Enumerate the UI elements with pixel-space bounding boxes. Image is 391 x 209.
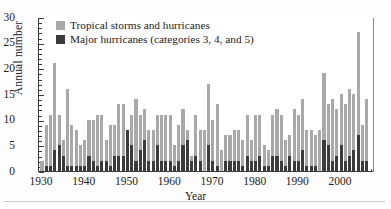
y-axis-minor-tick — [39, 74, 42, 75]
bar-major-hurricanes — [365, 161, 368, 171]
legend-label-tropical-storms: Tropical storms and hurricanes — [70, 19, 210, 31]
x-axis-tick-label: 1990 — [277, 175, 317, 187]
bar-major-hurricanes — [181, 145, 184, 171]
bar-major-hurricanes — [297, 161, 300, 171]
y-axis-minor-tick — [39, 116, 42, 117]
y-axis-minor-tick — [39, 90, 42, 91]
bar-major-hurricanes — [314, 166, 317, 171]
bar-major-hurricanes — [156, 145, 159, 171]
y-axis-minor-tick — [39, 85, 42, 86]
bar-major-hurricanes — [130, 145, 133, 171]
bar-tropical-storms — [318, 130, 321, 171]
y-axis-minor-tick — [39, 80, 42, 81]
y-axis-minor-tick — [39, 105, 42, 106]
y-axis-tick-label: 25 — [0, 37, 15, 49]
bar-major-hurricanes — [134, 161, 137, 171]
y-axis-major-tick — [39, 121, 44, 122]
y-axis-minor-tick — [39, 131, 42, 132]
legend-item-major-hurricanes: Major hurricanes (categories 3, 4, and 5… — [56, 33, 254, 45]
bar-tropical-storms — [70, 125, 73, 171]
bar-major-hurricanes — [288, 156, 291, 171]
bar-major-hurricanes — [233, 161, 236, 171]
bar-major-hurricanes — [177, 161, 180, 171]
bar-major-hurricanes — [75, 166, 78, 171]
bar-major-hurricanes — [357, 135, 360, 171]
bar-tropical-storms — [66, 89, 69, 171]
y-axis-minor-tick — [39, 33, 42, 34]
bar-major-hurricanes — [92, 161, 95, 171]
y-axis-minor-tick — [39, 110, 42, 111]
legend-swatch-tropical-storms — [56, 21, 65, 30]
y-axis-minor-tick — [39, 151, 42, 152]
bar-tropical-storms — [220, 150, 223, 171]
bar-major-hurricanes — [96, 166, 99, 171]
bar-major-hurricanes — [344, 161, 347, 171]
y-axis-major-tick — [39, 172, 44, 173]
bar-major-hurricanes — [263, 166, 266, 171]
y-axis-minor-tick — [39, 23, 42, 24]
bar-major-hurricanes — [271, 156, 274, 171]
plot-right-border — [373, 18, 374, 172]
y-axis-minor-tick — [39, 141, 42, 142]
bar-major-hurricanes — [335, 156, 338, 171]
x-axis-tick-label: 1970 — [192, 175, 232, 187]
y-axis-major-tick — [39, 95, 44, 96]
y-axis-major-tick — [39, 69, 44, 70]
bar-tropical-storms — [203, 130, 206, 171]
y-axis-minor-tick — [39, 54, 42, 55]
x-axis-tick-label: 1960 — [149, 175, 189, 187]
bar-major-hurricanes — [250, 161, 253, 171]
bar-major-hurricanes — [87, 156, 90, 171]
legend-swatch-major-hurricanes — [56, 35, 65, 44]
bar-major-hurricanes — [152, 161, 155, 171]
bar-major-hurricanes — [310, 166, 313, 171]
bar-major-hurricanes — [173, 166, 176, 171]
bar-major-hurricanes — [126, 130, 129, 171]
y-axis-minor-tick — [39, 59, 42, 60]
bar-major-hurricanes — [241, 166, 244, 171]
y-axis-minor-tick — [39, 64, 42, 65]
bar-major-hurricanes — [190, 161, 193, 171]
y-axis-minor-tick — [39, 100, 42, 101]
bar-major-hurricanes — [83, 166, 86, 171]
bar-major-hurricanes — [267, 166, 270, 171]
bar-major-hurricanes — [186, 140, 189, 171]
y-axis-minor-tick — [39, 126, 42, 127]
bar-major-hurricanes — [70, 166, 73, 171]
bar-major-hurricanes — [109, 166, 112, 171]
bar-major-hurricanes — [49, 166, 52, 171]
bar-major-hurricanes — [305, 166, 308, 171]
legend-item-tropical-storms: Tropical storms and hurricanes — [56, 19, 254, 31]
bar-major-hurricanes — [62, 156, 65, 171]
bar-major-hurricanes — [169, 161, 172, 171]
bar-major-hurricanes — [216, 166, 219, 171]
bar-tropical-storms — [96, 115, 99, 171]
bar-tropical-storms — [75, 130, 78, 171]
bar-tropical-storms — [310, 130, 313, 171]
x-axis-tick-label: 2000 — [320, 175, 360, 187]
bar-tropical-storms — [49, 115, 52, 171]
bar-major-hurricanes — [117, 156, 120, 171]
y-axis-tick-label: 15 — [0, 89, 15, 101]
bar-major-hurricanes — [361, 161, 364, 171]
bar-major-hurricanes — [331, 161, 334, 171]
bar-major-hurricanes — [113, 156, 116, 171]
scan-artifact-line — [4, 201, 385, 202]
bar-major-hurricanes — [143, 140, 146, 171]
hurricane-frequency-chart: Annual number Tropical storms and hurric… — [0, 0, 391, 209]
bar-major-hurricanes — [322, 140, 325, 171]
bar-tropical-storms — [109, 125, 112, 171]
bar-major-hurricanes — [160, 161, 163, 171]
y-axis-minor-tick — [39, 28, 42, 29]
y-axis-tick-label: 30 — [0, 12, 15, 24]
bar-major-hurricanes — [284, 166, 287, 171]
y-axis-minor-tick — [39, 39, 42, 40]
bar-major-hurricanes — [301, 150, 304, 171]
bar-major-hurricanes — [105, 161, 108, 171]
bar-major-hurricanes — [348, 156, 351, 171]
bar-major-hurricanes — [340, 145, 343, 171]
y-axis-major-tick — [39, 18, 44, 19]
bar-major-hurricanes — [194, 156, 197, 171]
bar-tropical-storms — [305, 130, 308, 171]
bar-major-hurricanes — [275, 156, 278, 171]
